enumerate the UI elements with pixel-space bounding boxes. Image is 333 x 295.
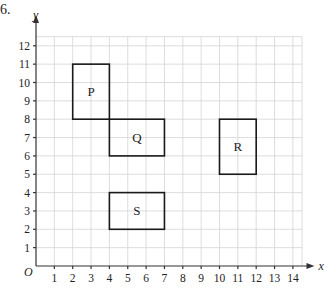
coordinate-grid: xyO 1234567891011121314123456789101112 P…: [0, 0, 333, 295]
y-tick-label: 3: [24, 205, 30, 217]
y-tick-label: 1: [24, 242, 30, 254]
x-tick-label: 12: [250, 272, 262, 284]
x-tick-label: 8: [180, 272, 186, 284]
x-tick-label: 7: [162, 272, 168, 284]
y-tick-label: 6: [24, 150, 30, 162]
x-tick-label: 14: [287, 272, 299, 284]
grid-lines: [36, 37, 302, 266]
x-axis-arrow-icon: [306, 263, 314, 269]
x-tick-label: 3: [88, 272, 94, 284]
x-axis-label: x: [317, 259, 324, 273]
y-tick-label: 9: [24, 95, 30, 107]
shape-label-p: P: [87, 84, 94, 99]
y-tick-label: 10: [19, 77, 31, 89]
y-tick-label: 7: [24, 132, 30, 144]
y-tick-label: 11: [19, 58, 30, 70]
y-axis-label: y: [32, 8, 39, 22]
x-tick-label: 13: [269, 272, 281, 284]
y-tick-label: 8: [24, 113, 30, 125]
x-tick-label: 2: [70, 272, 76, 284]
x-tick-label: 6: [143, 272, 149, 284]
x-tick-label: 9: [198, 272, 204, 284]
y-tick-label: 5: [24, 168, 30, 180]
y-tick-label: 4: [24, 187, 30, 199]
y-tick-label: 2: [24, 223, 30, 235]
x-tick-label: 11: [232, 272, 243, 284]
x-tick-label: 10: [214, 272, 226, 284]
axes: xyO: [24, 8, 324, 279]
origin-label: O: [24, 265, 33, 279]
x-tick-label: 4: [107, 272, 113, 284]
shape-label-s: S: [133, 203, 140, 218]
shape-label-q: Q: [132, 130, 142, 145]
x-tick-label: 5: [125, 272, 131, 284]
y-tick-label: 12: [19, 40, 31, 52]
x-tick-label: 1: [51, 272, 57, 284]
shape-label-r: R: [234, 139, 243, 154]
